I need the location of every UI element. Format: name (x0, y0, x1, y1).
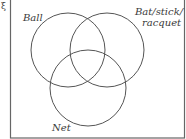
universal-set-symbol: ξ (1, 1, 6, 11)
set-label-net: Net (51, 122, 72, 133)
set-circle-bat (70, 13, 144, 87)
set-label-bat-line1: Bat/stick/ (134, 6, 185, 17)
set-circle-net (50, 50, 126, 126)
set-label-bat-line2: racquet (142, 17, 182, 28)
set-label-ball: Ball (22, 12, 43, 23)
venn-diagram: ξ Ball Bat/stick/ racquet Net (0, 0, 186, 139)
